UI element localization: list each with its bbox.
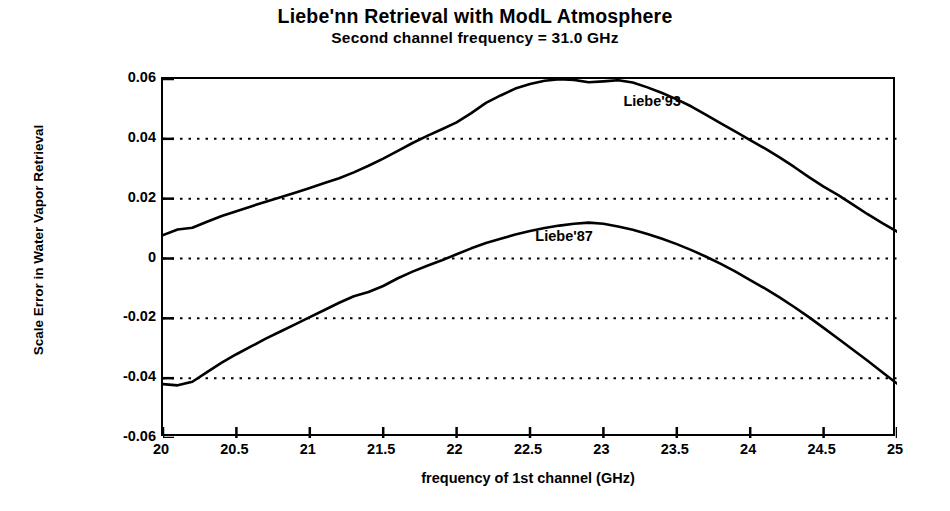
x-tick-label: 21 xyxy=(300,440,316,458)
x-tick-label: 21.5 xyxy=(367,440,395,458)
series-label-2: Liebe'87 xyxy=(535,228,592,244)
chart-figure: Liebe'nn Retrieval with ModL Atmosphere … xyxy=(0,0,950,511)
plot-svg xyxy=(163,79,897,438)
chart-title: Liebe'nn Retrieval with ModL Atmosphere xyxy=(0,4,950,28)
x-axis-label: frequency of 1st channel (GHz) xyxy=(161,470,895,486)
series-label-1: Liebe'93 xyxy=(623,93,680,109)
y-tick-label: 0.02 xyxy=(84,189,156,205)
chart-title-block: Liebe'nn Retrieval with ModL Atmosphere … xyxy=(0,4,950,48)
series-line-1 xyxy=(163,79,897,235)
x-tick-label: 22.5 xyxy=(514,440,542,458)
x-tick-label: 20.5 xyxy=(220,440,248,458)
chart-subtitle: Second channel frequency = 31.0 GHz xyxy=(0,28,950,48)
series-line-2 xyxy=(163,223,897,386)
y-tick-label: 0 xyxy=(84,249,156,265)
x-axis-tick-labels: 2020.52121.52222.52323.52424.525 xyxy=(161,440,895,462)
x-tick-label: 24.5 xyxy=(807,440,835,458)
y-tick-label: -0.02 xyxy=(84,308,156,324)
x-tick-label: 22 xyxy=(447,440,463,458)
x-tick-label: 23 xyxy=(593,440,609,458)
y-axis-label: Scale Error in Water Vapor Retrieval xyxy=(26,40,52,440)
x-tick-label: 20 xyxy=(153,440,169,458)
y-tick-label: 0.06 xyxy=(84,69,156,85)
y-tick-label: 0.04 xyxy=(84,129,156,145)
y-axis-tick-labels: 0.060.040.020-0.02-0.04-0.06 xyxy=(78,77,156,436)
x-tick-label: 23.5 xyxy=(661,440,689,458)
plot-area xyxy=(161,77,895,436)
y-tick-label: -0.04 xyxy=(84,368,156,384)
y-tick-label: -0.06 xyxy=(84,428,156,444)
x-tick-label: 25 xyxy=(887,440,903,458)
x-tick-label: 24 xyxy=(740,440,756,458)
